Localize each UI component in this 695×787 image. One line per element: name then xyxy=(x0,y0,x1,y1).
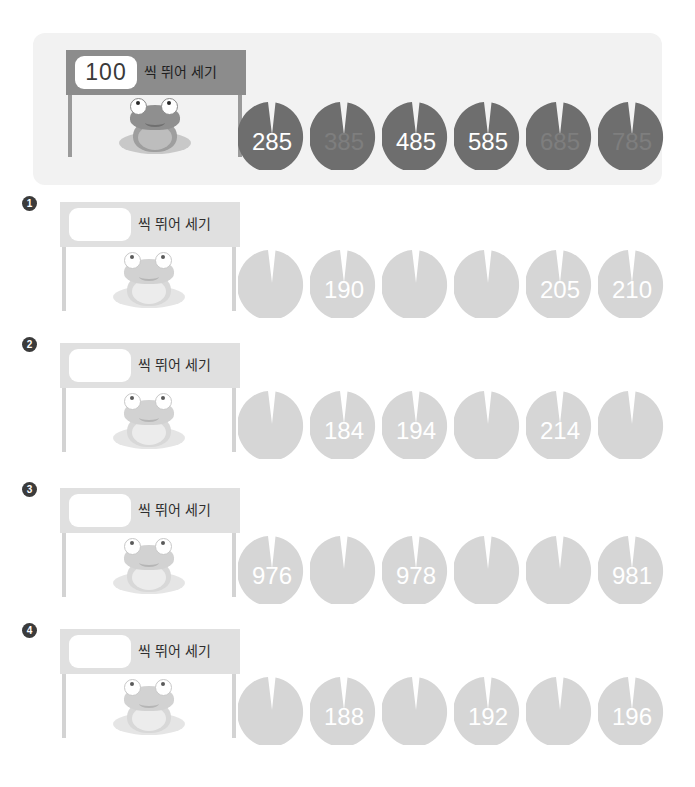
step-value xyxy=(69,349,131,382)
step-value xyxy=(69,208,131,241)
lilypad[interactable] xyxy=(310,534,378,604)
sign-label: 씩 뛰어 세기 xyxy=(138,202,211,247)
sign-label: 씩 뛰어 세기 xyxy=(138,488,211,533)
example-step-value: 100 xyxy=(75,56,137,89)
lilypad-number: 214 xyxy=(526,389,594,459)
lilypad[interactable]: 978 xyxy=(382,534,450,604)
sign-post-right xyxy=(232,388,236,452)
lilypad[interactable] xyxy=(238,389,306,459)
lilypad[interactable]: 196 xyxy=(598,675,666,745)
lilypad-number: 785 xyxy=(598,100,666,170)
lilypad-number: 385 xyxy=(310,100,378,170)
lilypad[interactable] xyxy=(526,675,594,745)
lilypad[interactable]: 205 xyxy=(526,248,594,318)
lilypad[interactable] xyxy=(598,389,666,459)
frog-illustration xyxy=(116,96,194,158)
lilypad-number xyxy=(526,675,594,745)
lilypad[interactable]: 214 xyxy=(526,389,594,459)
example-sign: 100 씩 뛰어 세기 xyxy=(66,50,246,160)
lilypad[interactable]: 190 xyxy=(310,248,378,318)
lilypad[interactable]: 194 xyxy=(382,389,450,459)
frog-pupil-right xyxy=(161,541,165,545)
sign-post-left xyxy=(62,388,66,452)
problem-sign: 씩 뛰어 세기 xyxy=(60,343,240,455)
problem-number-badge: 4 xyxy=(22,623,37,638)
sign-post-left xyxy=(68,95,72,157)
frog-mouth xyxy=(145,118,165,127)
lilypad[interactable] xyxy=(238,248,306,318)
sign-post-right xyxy=(232,533,236,597)
lilypad-number: 192 xyxy=(454,675,522,745)
frog-illustration xyxy=(110,677,188,739)
lilypad[interactable] xyxy=(238,675,306,745)
frog-pupil-left xyxy=(130,396,134,400)
lilypad-number: 194 xyxy=(382,389,450,459)
lilypad-number: 190 xyxy=(310,248,378,318)
lilypad-number xyxy=(454,248,522,318)
problem-row: 4씩 뛰어 세기188192196 xyxy=(0,623,695,763)
lilypad-number xyxy=(382,248,450,318)
lilypad-number xyxy=(238,389,306,459)
problem-number-badge: 2 xyxy=(22,337,37,352)
lilypad-number: 978 xyxy=(382,534,450,604)
sign-post-right xyxy=(232,674,236,738)
lilypad[interactable] xyxy=(454,534,522,604)
lilypad[interactable]: 785 xyxy=(598,100,666,170)
lilypad-number xyxy=(238,675,306,745)
sign-post-left xyxy=(62,674,66,738)
lilypad-number xyxy=(454,534,522,604)
problem-sign: 씩 뛰어 세기 xyxy=(60,629,240,741)
problem-number-badge: 1 xyxy=(22,196,37,211)
problem-row: 2씩 뛰어 세기184194214 xyxy=(0,337,695,477)
lilypad-number: 976 xyxy=(238,534,306,604)
lilypad-number: 188 xyxy=(310,675,378,745)
lilypad-number xyxy=(598,389,666,459)
frog-illustration xyxy=(110,391,188,453)
lilypad[interactable]: 585 xyxy=(454,100,522,170)
frog-mouth xyxy=(139,699,159,708)
lilypad-number: 210 xyxy=(598,248,666,318)
lilypad[interactable] xyxy=(454,389,522,459)
lilypad-number: 285 xyxy=(238,100,306,170)
lilypad[interactable] xyxy=(382,248,450,318)
frog-mouth xyxy=(139,413,159,422)
frog-pupil-left xyxy=(136,101,140,105)
lilypad[interactable]: 685 xyxy=(526,100,594,170)
lilypad[interactable]: 192 xyxy=(454,675,522,745)
problem-row: 1씩 뛰어 세기190205210 xyxy=(0,196,695,336)
lilypad[interactable]: 981 xyxy=(598,534,666,604)
lilypad[interactable]: 285 xyxy=(238,100,306,170)
frog-mouth xyxy=(139,558,159,567)
lilypad[interactable] xyxy=(382,675,450,745)
lilypad[interactable] xyxy=(454,248,522,318)
worksheet-page: 100 씩 뛰어 세기 285385485585685785 1씩 뛰어 세기1… xyxy=(0,0,695,787)
lilypad[interactable] xyxy=(526,534,594,604)
lilypad-number: 981 xyxy=(598,534,666,604)
lilypad-number xyxy=(238,248,306,318)
lilypad-number xyxy=(454,389,522,459)
lilypad[interactable]: 485 xyxy=(382,100,450,170)
sign-label: 씩 뛰어 세기 xyxy=(138,343,211,388)
sign-post-right xyxy=(232,247,236,311)
frog-illustration xyxy=(110,250,188,312)
step-value xyxy=(69,635,131,668)
lilypad[interactable]: 385 xyxy=(310,100,378,170)
frog-pupil-left xyxy=(130,541,134,545)
lilypad[interactable]: 184 xyxy=(310,389,378,459)
problem-row: 3씩 뛰어 세기976978981 xyxy=(0,482,695,622)
frog-pupil-left xyxy=(130,682,134,686)
frog-illustration xyxy=(110,536,188,598)
lilypad[interactable]: 976 xyxy=(238,534,306,604)
frog-mouth xyxy=(139,272,159,281)
lilypad-number: 485 xyxy=(382,100,450,170)
lilypad[interactable]: 210 xyxy=(598,248,666,318)
problem-number-badge: 3 xyxy=(22,482,37,497)
sign-post-left xyxy=(62,533,66,597)
problem-sign: 씩 뛰어 세기 xyxy=(60,488,240,600)
lilypad-number: 184 xyxy=(310,389,378,459)
frog-pupil-right xyxy=(161,682,165,686)
lilypad[interactable]: 188 xyxy=(310,675,378,745)
step-value xyxy=(69,494,131,527)
lilypad-number: 205 xyxy=(526,248,594,318)
problem-sign: 씩 뛰어 세기 xyxy=(60,202,240,314)
